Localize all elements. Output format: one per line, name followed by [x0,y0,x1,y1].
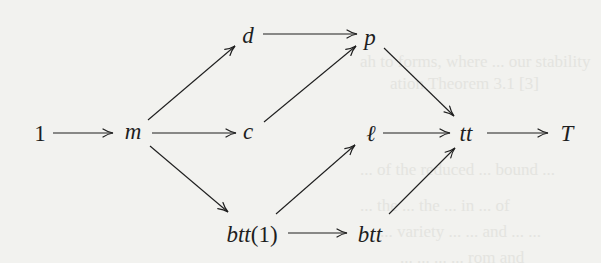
arrow-m-to-btt1 [150,146,228,212]
diagram-arrows [0,0,601,263]
arrow-c-to-p [264,46,356,122]
node-one: 1 [34,122,46,145]
arrow-p-to-tt [384,48,454,116]
node-d: d [242,24,254,47]
node-btt-1-arg: (1) [251,222,278,247]
arrow-btt1-to- [276,145,355,214]
node-m: m [125,120,142,143]
node-c: c [243,120,253,143]
node-btt: btt [358,223,382,246]
node-btt-1: btt(1) [226,223,277,246]
node-p: p [364,26,376,49]
node-btt-1-main: btt [226,222,250,247]
arrow-btt-to-tt [389,148,455,214]
arrow-m-to-d [148,46,235,120]
node-tt: tt [460,122,473,145]
node-T: T [561,122,574,145]
node-ell: ℓ [366,122,376,145]
